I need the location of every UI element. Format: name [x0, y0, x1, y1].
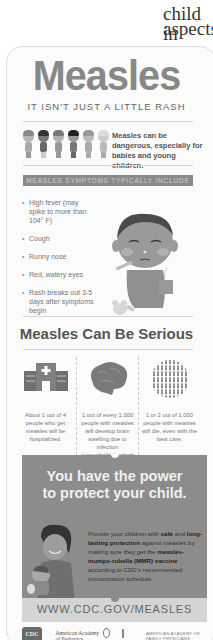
- partner-logos: CDC American Academy of Pediatrics AMERI…: [22, 627, 207, 640]
- body-text: according to CDC's recommended immunizat…: [88, 566, 182, 582]
- panel-notch: [111, 454, 119, 458]
- symptom-item: Rash breaks out 3-5 days after symptoms …: [22, 288, 94, 315]
- children-illustration: [22, 129, 110, 159]
- child-figure: [82, 129, 95, 159]
- infographic-title: Measles: [9, 52, 205, 98]
- aafp-logo-text: AMERICAN ACADEMY OF FAMILY PHYSICIANS: [146, 627, 207, 640]
- url-banner: WWW.CDC.GOV/MEASLES: [22, 598, 207, 622]
- hospital-icon: [24, 359, 68, 399]
- symptom-item: Runny nose: [22, 252, 94, 261]
- body-text: Provide your children with: [88, 530, 161, 537]
- aafp-mark-icon: [122, 629, 124, 638]
- child-figure: [97, 129, 110, 159]
- people-globe-icon: [148, 359, 192, 399]
- infographic-subtitle: IT ISN'T JUST A LITTLE RASH: [0, 101, 213, 112]
- brain-icon: [86, 359, 130, 399]
- child-figure: [37, 129, 50, 159]
- headline-line-2: to protect your child.: [22, 485, 207, 502]
- stat-text: 1 or 2 out of 1,000 people with measles …: [141, 411, 198, 443]
- symptom-item: Red, watery eyes: [22, 270, 94, 279]
- divider: [23, 316, 193, 317]
- divider: [23, 349, 193, 350]
- protect-body: Provide your children with safe and long…: [88, 529, 203, 583]
- headline-line-1: You have the power: [22, 468, 207, 485]
- child-figure: [22, 129, 35, 159]
- child-figure: [52, 129, 65, 159]
- child-figure: [67, 129, 80, 159]
- divider: [23, 165, 193, 166]
- aap-seal-icon: [103, 628, 110, 638]
- serious-heading: Measles Can Be Serious: [0, 325, 213, 342]
- symptoms-list: High fever (may spike to more than 104° …: [22, 198, 94, 324]
- protect-panel: You have the power to protect your child…: [22, 455, 207, 603]
- symptom-item: Cough: [22, 234, 94, 243]
- divider: [23, 121, 193, 122]
- aap-logo-text: American Academy of Pediatrics: [56, 627, 101, 640]
- panel-notch: [111, 598, 119, 602]
- page-text-fragment-2: aspects: [163, 19, 213, 39]
- symptom-item: High fever (may spike to more than 104° …: [22, 198, 94, 225]
- cdc-measles-link[interactable]: WWW.CDC.GOV/MEASLES: [22, 603, 207, 615]
- body-emphasis: safe: [161, 530, 173, 537]
- symptoms-banner: MEASLES SYMPTOMS TYPICALLY INCLUDE: [23, 175, 193, 186]
- mother-child-illustration: [27, 523, 87, 603]
- stat-text: About 1 out of 4 people who get measles …: [17, 411, 74, 443]
- cdc-logo: CDC: [22, 627, 42, 640]
- protect-headline: You have the power to protect your child…: [22, 468, 207, 502]
- sick-boy-illustration: [105, 208, 185, 323]
- body-text: and: [173, 530, 187, 537]
